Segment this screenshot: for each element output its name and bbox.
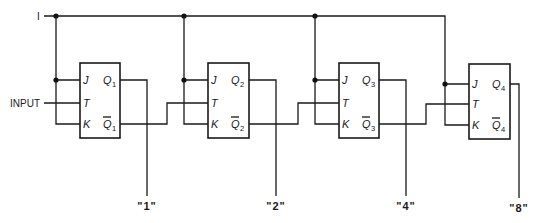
q-output-wire-4 (510, 84, 519, 198)
pin-j: J (210, 74, 217, 86)
output-label-1: "1" (137, 200, 157, 212)
pin-q-sub: 4 (501, 84, 505, 93)
pin-j: J (341, 74, 348, 86)
pin-q: Q (362, 74, 371, 86)
pin-q: Q (231, 74, 240, 86)
pin-qbar-sub: 3 (371, 124, 375, 133)
junction-dot (312, 77, 317, 82)
junction-dot (181, 77, 186, 82)
flip-flop-1: J T K Q 1 Q 1 "1" (53, 16, 208, 212)
pin-k: K (83, 118, 91, 130)
junction-dot (442, 81, 447, 86)
jk-bus-2 (184, 16, 208, 124)
pin-k: K (211, 118, 219, 130)
q-output-wire-2 (249, 80, 276, 196)
pin-j: J (471, 78, 478, 90)
pin-q-sub: 1 (112, 80, 116, 89)
q-output-wire-3 (379, 80, 406, 196)
counter-schematic: I INPUT J T K Q 1 Q 1 "1" J T K Q 2 Q 2 (0, 0, 538, 223)
input-label: INPUT (10, 98, 40, 109)
junction-dot (53, 77, 58, 82)
qbar-to-t2 (120, 103, 208, 124)
q-output-wire-1 (120, 80, 147, 196)
pin-k: K (342, 118, 350, 130)
qbar-to-t4 (379, 104, 469, 124)
pin-qbar: Q (231, 118, 240, 130)
pin-qbar: Q (492, 119, 501, 131)
jk-bus-1 (56, 16, 80, 124)
pin-q-sub: 3 (371, 80, 375, 89)
flip-flop-4: J T K Q 4 Q 4 "8" (442, 64, 528, 214)
pin-k: K (472, 119, 480, 131)
qbar-to-t3 (249, 103, 339, 124)
output-label-2: "2" (266, 200, 286, 212)
pin-q: Q (492, 78, 501, 90)
rail-label: I (37, 11, 40, 22)
pin-qbar: Q (103, 118, 112, 130)
pin-qbar: Q (362, 118, 371, 130)
pin-qbar-sub: 4 (501, 125, 505, 134)
output-label-3: "4" (396, 200, 416, 212)
pin-j: J (82, 74, 89, 86)
pin-q-sub: 2 (240, 80, 244, 89)
output-label-4: "8" (509, 202, 529, 214)
pin-q: Q (103, 74, 112, 86)
jk-bus-3 (315, 16, 339, 124)
pin-qbar-sub: 1 (112, 124, 116, 133)
pin-qbar-sub: 2 (240, 124, 244, 133)
